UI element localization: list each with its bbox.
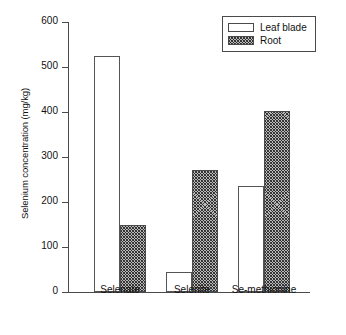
y-tick: 100: [62, 247, 68, 248]
bar-se-methionine-root: [264, 111, 290, 292]
y-tick-label: 600: [41, 15, 58, 26]
y-axis-label: Selenium concentration (mg/kg): [19, 44, 30, 264]
bar-se-methionine-leaf-blade: [238, 186, 264, 292]
legend-label-leaf-blade: Leaf blade: [260, 22, 307, 33]
y-tick-label: 500: [41, 60, 58, 71]
legend-item-leaf-blade: Leaf blade: [228, 21, 307, 34]
y-tick: 0: [62, 292, 68, 293]
x-tick-label-selenite: Selenite: [174, 284, 210, 295]
y-tick: 300: [62, 157, 68, 158]
y-tick: 600: [62, 22, 68, 23]
legend: Leaf blade Root: [222, 16, 316, 52]
y-tick-label: 100: [41, 240, 58, 251]
x-tick-label-selenate: Selenate: [100, 284, 139, 295]
legend-swatch-leaf-blade: [228, 23, 254, 32]
legend-item-root: Root: [228, 34, 307, 47]
y-tick-label: 200: [41, 195, 58, 206]
bar-selenate-root: [120, 225, 146, 292]
y-tick-label: 400: [41, 105, 58, 116]
y-tick-label: 0: [52, 285, 58, 296]
y-tick-label: 300: [41, 150, 58, 161]
bar-selenite-root: [192, 170, 218, 292]
figure: Selenium concentration (mg/kg) 010020030…: [0, 0, 346, 335]
y-tick: 200: [62, 202, 68, 203]
legend-swatch-root: [228, 36, 254, 45]
y-tick: 500: [62, 67, 68, 68]
legend-label-root: Root: [260, 35, 281, 46]
y-axis-line: [68, 22, 69, 292]
x-tick-label-se-methionine: Se-methionine: [232, 284, 296, 295]
plot-area: 0100200300400500600: [68, 22, 310, 292]
bar-selenate-leaf-blade: [94, 56, 120, 292]
y-tick: 400: [62, 112, 68, 113]
